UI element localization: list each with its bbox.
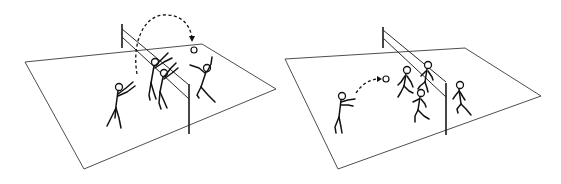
right-player-teammate-1 bbox=[398, 67, 413, 98]
right-ball-trajectory bbox=[356, 79, 379, 93]
right-panel bbox=[285, 27, 541, 169]
right-player-teammate-2 bbox=[418, 62, 433, 93]
volleyball-illustration bbox=[0, 0, 561, 184]
left-player-setter bbox=[107, 82, 135, 128]
right-player-opponent bbox=[453, 82, 471, 116]
left-player-attacker bbox=[190, 57, 215, 102]
right-player-teammate-3 bbox=[413, 90, 429, 123]
arrowhead-icon bbox=[377, 76, 382, 82]
right-player-passer bbox=[335, 93, 355, 134]
illustration bbox=[0, 0, 561, 184]
right-ball bbox=[383, 76, 389, 82]
left-panel bbox=[25, 15, 276, 169]
arrowhead-icon bbox=[189, 36, 195, 42]
left-net bbox=[122, 24, 189, 134]
left-ball bbox=[191, 47, 197, 53]
left-ball-trajectory bbox=[136, 15, 192, 74]
